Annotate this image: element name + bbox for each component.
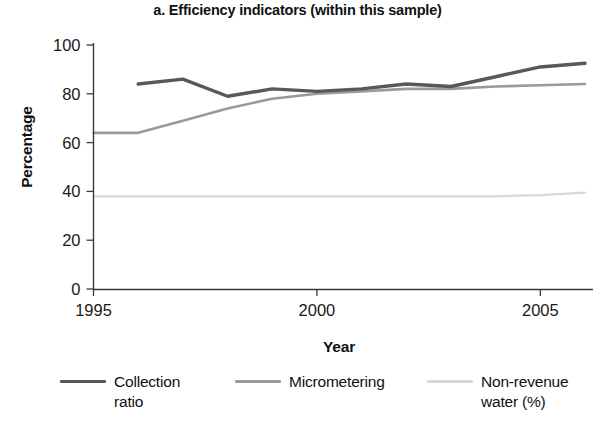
legend-label-non-revenue-water: Non-revenue water (%) <box>481 372 568 412</box>
plot-area: 020406080100 199520002005 <box>0 0 595 427</box>
x-axis-title: Year <box>93 338 585 356</box>
legend-label-line1: Non-revenue <box>481 373 568 390</box>
y-tick-label: 80 <box>62 85 80 103</box>
legend-label-line1: Micrometering <box>289 373 385 390</box>
legend-swatch-micrometering <box>235 380 281 383</box>
chart-legend: Collection ratio Micrometering Non-reven… <box>60 372 595 412</box>
legend-label-micrometering: Micrometering <box>289 372 385 392</box>
y-tick-layer: 020406080100 <box>53 36 94 298</box>
y-tick-label: 60 <box>62 134 80 152</box>
legend-swatch-collection-ratio <box>60 380 106 383</box>
series-layer <box>94 63 586 196</box>
legend-label-line2: water (%) <box>481 393 546 410</box>
y-tick-label: 0 <box>71 280 80 298</box>
legend-label-line1: Collection <box>114 373 180 390</box>
legend-label-line2: ratio <box>114 393 143 410</box>
x-tick-label: 2005 <box>522 301 559 319</box>
legend-label-collection-ratio: Collection ratio <box>114 372 180 412</box>
legend-item-micrometering: Micrometering <box>235 372 427 392</box>
x-tick-layer: 199520002005 <box>75 289 559 319</box>
legend-swatch-non-revenue-water <box>427 380 473 383</box>
x-tick-label: 2000 <box>299 301 336 319</box>
y-tick-label: 20 <box>62 231 80 249</box>
figure: a. Efficiency indicators (within this sa… <box>0 0 595 427</box>
y-axis-title: Percentage <box>18 87 36 207</box>
legend-item-non-revenue-water: Non-revenue water (%) <box>427 372 595 412</box>
series-line-non-revenue-water <box>94 193 586 197</box>
y-tick-label: 40 <box>62 182 80 200</box>
x-tick-label: 1995 <box>75 301 112 319</box>
y-tick-label: 100 <box>53 36 81 54</box>
legend-item-collection-ratio: Collection ratio <box>60 372 235 412</box>
